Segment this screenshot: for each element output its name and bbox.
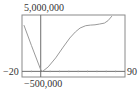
- chart-plot: [0, 0, 138, 92]
- y-min-label: −500,000: [24, 79, 62, 89]
- data-curve: [24, 16, 112, 71]
- plot-frame: [22, 15, 125, 77]
- y-max-label: 5,000,000: [24, 3, 64, 13]
- x-max-label: 90: [127, 67, 137, 77]
- x-min-label: −20: [3, 67, 19, 77]
